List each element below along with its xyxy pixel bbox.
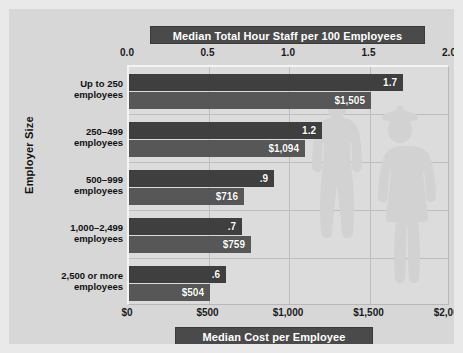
bottom-tick-label-3: $1,500 (353, 307, 384, 318)
bar-cost-2: $716 (129, 188, 244, 205)
bar-cost-4: $504 (129, 284, 210, 301)
gridline-horizontal-1 (129, 162, 448, 163)
top-tick-label-0: 0.0 (120, 47, 134, 58)
gridline-horizontal-2 (129, 210, 448, 211)
bar-value-label-cost-4: $504 (182, 287, 204, 298)
category-label-line: employees (31, 281, 123, 292)
bar-value-label-staff-4: .6 (212, 269, 220, 280)
bottom-tick-label-2: $1,000 (273, 307, 304, 318)
bar-staff-1: 1.2 (129, 122, 322, 139)
bottom-axis-ticks: $0$500$1,000$1,500$2,000 (127, 307, 449, 321)
bar-staff-0: 1.7 (129, 74, 403, 91)
category-label-2: 500–999employees (31, 174, 123, 196)
category-label-line: 500–999 (31, 174, 123, 185)
chart-figure: Median Total Hour Staff per 100 Employee… (0, 0, 463, 353)
category-label-line: employees (31, 137, 123, 148)
category-label-line: employees (31, 233, 123, 244)
bar-value-label-staff-0: 1.7 (383, 77, 397, 88)
category-label-line: Up to 250 (31, 78, 123, 89)
top-tick-label-1: 0.5 (201, 47, 215, 58)
bar-staff-4: .6 (129, 266, 226, 283)
category-axis-labels: Up to 250employees250–499employees500–99… (31, 65, 123, 305)
category-label-line: 250–499 (31, 126, 123, 137)
bar-value-label-staff-1: 1.2 (302, 125, 316, 136)
bottom-axis-title-banner: Median Cost per Employee (175, 327, 373, 345)
bar-cost-3: $759 (129, 236, 251, 253)
bar-value-label-staff-3: .7 (228, 221, 236, 232)
top-tick-label-3: 1.5 (362, 47, 376, 58)
gridline-horizontal-3 (129, 258, 448, 259)
gridline-horizontal-0 (129, 114, 448, 115)
category-label-line: 1,000–2,499 (31, 222, 123, 233)
category-label-1: 250–499employees (31, 126, 123, 148)
category-label-line: employees (31, 89, 123, 100)
top-tick-label-4: 2.0 (442, 47, 456, 58)
top-axis-ticks: 0.00.51.01.52.0 (127, 47, 449, 61)
bar-cost-1: $1,094 (129, 140, 305, 157)
bar-value-label-staff-2: .9 (260, 173, 268, 184)
bottom-tick-label-4: $2,000 (434, 307, 463, 318)
category-label-4: 2,500 or moreemployees (31, 270, 123, 292)
top-axis-title-banner: Median Total Hour Staff per 100 Employee… (150, 26, 425, 44)
bar-cost-0: $1,505 (129, 92, 371, 109)
bar-staff-2: .9 (129, 170, 274, 187)
bar-value-label-cost-2: $716 (216, 191, 238, 202)
bar-value-label-cost-1: $1,094 (268, 143, 299, 154)
top-tick-label-2: 1.0 (281, 47, 295, 58)
plot-area: 1.7$1,5051.2$1,094.9$716.7$759.6$504 (127, 65, 449, 305)
category-label-line: 2,500 or more (31, 270, 123, 281)
category-label-3: 1,000–2,499employees (31, 222, 123, 244)
bar-value-label-cost-0: $1,505 (334, 95, 365, 106)
category-label-line: employees (31, 185, 123, 196)
bottom-tick-label-0: $0 (121, 307, 132, 318)
category-label-0: Up to 250employees (31, 78, 123, 100)
bar-staff-3: .7 (129, 218, 242, 235)
bar-value-label-cost-3: $759 (223, 239, 245, 250)
bottom-tick-label-1: $500 (196, 307, 218, 318)
